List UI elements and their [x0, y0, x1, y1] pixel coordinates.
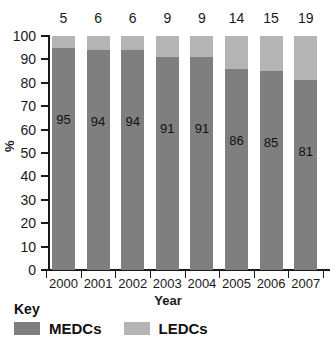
y-tick-label: 80 — [20, 76, 36, 90]
y-tick-mark — [41, 82, 48, 84]
legend-title: Key — [14, 302, 324, 316]
bar-group[interactable]: 8614 — [225, 36, 248, 270]
y-tick-mark — [41, 175, 48, 177]
bar-value-label-ledc: 19 — [294, 11, 317, 25]
y-tick-label: 50 — [20, 146, 36, 160]
y-tick-mark — [41, 246, 48, 248]
bar-value-label-medc: 91 — [190, 122, 213, 135]
stacked-bar-chart: % 0102030405060708090100 955946946919919… — [0, 0, 336, 339]
plot-area: 955946946919919861485158119 — [50, 36, 328, 270]
bar-segment-medc[interactable] — [121, 50, 144, 270]
bar-group[interactable]: 8515 — [260, 36, 283, 270]
bar-segment-medc[interactable] — [260, 71, 283, 270]
y-tick-label: 20 — [20, 216, 36, 230]
y-tick-mark — [41, 222, 48, 224]
y-tick-label: 0 — [28, 263, 36, 277]
bar-value-label-ledc: 6 — [87, 11, 110, 25]
bar-segment-medc[interactable] — [225, 69, 248, 270]
y-tick-label: 90 — [20, 52, 36, 66]
y-tick-mark — [41, 129, 48, 131]
bar-segment-medc[interactable] — [190, 57, 213, 270]
bar-value-label-medc: 94 — [87, 115, 110, 128]
legend-swatch-icon — [124, 322, 150, 335]
bar-value-label-medc: 85 — [260, 136, 283, 149]
y-tick-mark — [41, 199, 48, 201]
bar-value-label-medc: 91 — [156, 122, 179, 135]
legend-item-medcs[interactable]: MEDCs — [14, 321, 102, 336]
y-tick-mark — [41, 58, 48, 60]
y-tick-mark — [41, 105, 48, 107]
bar-group[interactable]: 919 — [156, 36, 179, 270]
legend-swatch-icon — [14, 322, 40, 335]
y-tick-mark — [41, 152, 48, 154]
bar-value-label-ledc: 15 — [260, 11, 283, 25]
bar-value-label-ledc: 9 — [190, 11, 213, 25]
bar-segment-medc[interactable] — [87, 50, 110, 270]
x-tick-mark — [323, 271, 324, 278]
y-tick-label: 10 — [20, 240, 36, 254]
bar-group[interactable]: 955 — [52, 36, 75, 270]
bar-group[interactable]: 8119 — [294, 36, 317, 270]
x-tick-mark — [46, 271, 47, 278]
y-tick-mark — [41, 35, 48, 37]
bar-value-label-medc: 86 — [225, 134, 248, 147]
y-tick-label: 60 — [20, 123, 36, 137]
bar-segment-medc[interactable] — [294, 80, 317, 270]
y-tick-label: 100 — [13, 29, 36, 43]
bar-value-label-ledc: 5 — [52, 11, 75, 25]
bar-value-label-medc: 94 — [121, 115, 144, 128]
y-axis-title: % — [2, 140, 17, 152]
bar-group[interactable]: 946 — [121, 36, 144, 270]
legend-item-ledcs[interactable]: LEDCs — [124, 321, 208, 336]
bar-value-label-ledc: 9 — [156, 11, 179, 25]
x-tick-label: 2007 — [286, 277, 326, 290]
bar-value-label-ledc: 14 — [225, 11, 248, 25]
legend-label: MEDCs — [49, 321, 102, 336]
bar-segment-medc[interactable] — [156, 57, 179, 270]
bar-group[interactable]: 946 — [87, 36, 110, 270]
y-tick-label: 30 — [20, 193, 36, 207]
bar-value-label-ledc: 6 — [121, 11, 144, 25]
bar-group[interactable]: 919 — [190, 36, 213, 270]
bar-segment-medc[interactable] — [52, 48, 75, 270]
y-tick-label: 40 — [20, 169, 36, 183]
y-tick-label: 70 — [20, 99, 36, 113]
legend-label: LEDCs — [159, 321, 208, 336]
legend-items: MEDCsLEDCs — [14, 321, 324, 336]
chart-legend: Key MEDCsLEDCs — [14, 302, 324, 336]
bar-value-label-medc: 81 — [294, 145, 317, 158]
bar-value-label-medc: 95 — [52, 113, 75, 126]
